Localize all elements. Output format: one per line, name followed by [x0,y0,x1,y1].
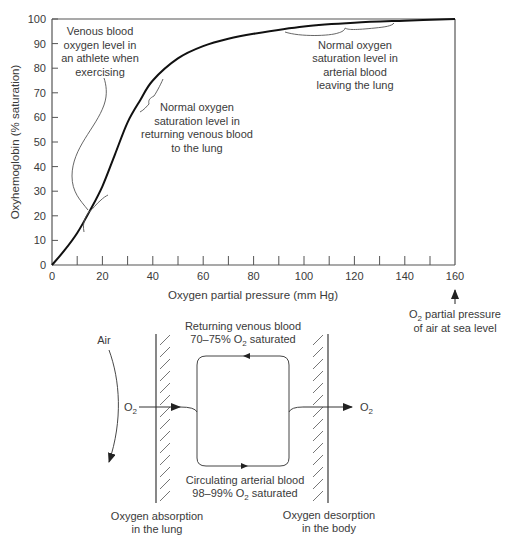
returning-venous-saturation: 70–75% O2 saturated [190,333,295,348]
y-tick-label: 60 [34,111,46,123]
arterial-blood-label: Circulating arterial blood [186,474,305,486]
air-label: Air [97,334,111,346]
x-tick-label: 0 [49,270,55,282]
returning-venous-label: Returning venous blood [185,320,301,332]
lung-label-1: Oxygen absorption [111,510,203,522]
svg-text:leaving the lung: leaving the lung [316,79,393,91]
svg-text:exercising: exercising [75,66,125,78]
x-tick-labels: 0 20 40 60 80 100 120 140 160 [49,270,464,282]
lung-wall-hatching [160,335,170,501]
svg-text:to the lung: to the lung [171,142,222,154]
y-tick-labels: 100 90 80 70 60 50 40 30 20 10 0 [28,13,46,271]
o2-in-label: O2 [124,401,138,416]
x-ticks [77,256,430,265]
svg-text:saturation level in: saturation level in [312,52,398,64]
gas-exchange-diagram: Returning venous blood 70–75% O2 saturat… [97,320,375,535]
venous-loop [197,356,289,408]
x-tick-label: 120 [345,270,363,282]
svg-text:arterial blood: arterial blood [323,66,387,78]
arterial-blood-saturation: 98–99% O2 saturated [192,487,297,502]
svg-text:Venous blood: Venous blood [67,25,134,37]
y-tick-label: 20 [34,210,46,222]
y-axis-title: Oxyhemoglobin (% saturation) [9,64,21,219]
arterial-brace [285,23,394,36]
y-tick-label: 90 [34,38,46,50]
body-wall-hatching [313,335,323,501]
x-tick-label: 160 [446,270,464,282]
y-tick-label: 40 [34,161,46,173]
venous-flow-arrow [243,353,250,359]
x-tick-label: 60 [197,270,209,282]
arterial-flow-arrow [241,463,248,469]
svg-text:Normal oxygen: Normal oxygen [160,101,234,113]
y-ticks [52,19,58,240]
x-tick-label: 140 [396,270,414,282]
sea-level-note: O2 partial pressure of air at sea level [409,308,501,334]
body-label-2: in the body [302,522,356,534]
x-tick-label: 100 [295,270,313,282]
svg-text:of air at sea level: of air at sea level [413,322,496,334]
y-tick-label: 30 [34,185,46,197]
y-tick-label: 100 [28,13,46,25]
o2-out-connector [289,407,303,412]
x-axis-title: Oxygen partial pressure (mm Hg) [168,289,338,301]
arterial-loop [197,408,289,466]
lung-label-2: in the lung [132,523,183,535]
x-tick-label: 40 [147,270,159,282]
svg-text:oxygen level in: oxygen level in [64,39,137,51]
figure: 100 90 80 70 60 50 40 30 20 10 0 [0,0,510,547]
air-flow-arrow [109,350,118,462]
x-tick-label: 80 [247,270,259,282]
o2-out-label: O2 [360,401,374,416]
y-tick-label: 10 [34,234,46,246]
body-label-1: Oxygen desorption [283,509,375,521]
y-tick-label: 0 [40,259,46,271]
venous-note: Normal oxygen saturation level in return… [141,101,253,154]
svg-text:returning venous blood: returning venous blood [141,128,253,140]
svg-text:Normal oxygen: Normal oxygen [318,39,392,51]
arterial-note: Normal oxygen saturation level in arteri… [312,39,398,91]
svg-text:saturation level in: saturation level in [154,115,240,127]
oxygen-dissociation-chart: 100 90 80 70 60 50 40 30 20 10 0 [9,13,501,334]
svg-text:an athlete when: an athlete when [61,52,139,64]
y-tick-label: 80 [34,62,46,74]
svg-text:O2 partial pressure: O2 partial pressure [409,308,501,323]
athlete-note: Venous blood oxygen level in an athlete … [61,25,139,78]
y-tick-label: 70 [34,87,46,99]
x-tick-label: 20 [96,270,108,282]
y-tick-label: 50 [34,136,46,148]
o2-in-connector [180,407,197,412]
